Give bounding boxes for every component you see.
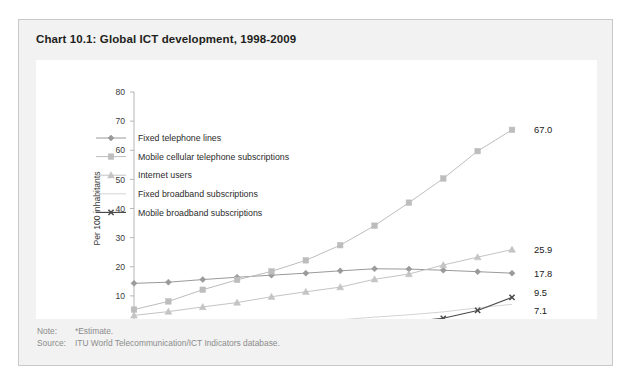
series-line: [134, 304, 512, 319]
footer-source-value: ITU World Telecommunication/ICT Indicato…: [75, 338, 597, 350]
data-point-diamond: [509, 270, 515, 276]
data-point-diamond: [475, 269, 481, 275]
footer-note-value: *Estimate.: [75, 326, 597, 338]
legend-swatch-marker: [108, 154, 114, 160]
data-point-diamond: [165, 279, 171, 285]
footer-note-row: Note: *Estimate.: [37, 326, 597, 338]
ict-development-line-chart: 01020304050607080Per 100 inhabitants9899…: [36, 60, 597, 319]
data-point-x: [509, 295, 514, 300]
screenshot-root: Chart 10.1: Global ICT development, 1998…: [0, 0, 635, 385]
y-axis-title: Per 100 inhabitants: [92, 171, 102, 245]
legend-label: Mobile cellular telephone subscriptions: [138, 152, 290, 162]
data-point-square: [337, 242, 343, 248]
data-point-square: [303, 258, 309, 264]
chart-footer: Note: *Estimate. Source: ITU World Telec…: [37, 326, 597, 349]
data-point-diamond: [372, 266, 378, 272]
data-point-square: [269, 269, 275, 275]
series-end-label: 25.9: [534, 244, 552, 255]
data-point-diamond: [131, 280, 137, 286]
legend-label: Mobile broadband subscriptions: [138, 208, 263, 218]
series-internet-users: [131, 246, 516, 318]
data-point-square: [234, 277, 240, 283]
legend-item-fixed-broadband-subscriptions[interactable]: Fixed broadband subscriptions: [96, 189, 258, 199]
footer-source-label: Source:: [37, 338, 75, 350]
legend-item-internet-users[interactable]: Internet users: [96, 170, 192, 180]
y-tick-label: 10: [115, 291, 125, 301]
series-line: [134, 269, 512, 284]
data-point-square: [509, 127, 515, 133]
series-end-label: 9.5: [534, 287, 547, 298]
data-point-diamond: [303, 270, 309, 276]
series-end-label: 7.1: [534, 305, 547, 316]
y-tick-label: 50: [115, 175, 125, 185]
chart-plot-area: 01020304050607080Per 100 inhabitants9899…: [36, 60, 597, 319]
legend-swatch-marker: [108, 135, 114, 141]
legend-item-mobile-cellular-telephone-subscriptions[interactable]: Mobile cellular telephone subscriptions: [96, 152, 290, 162]
y-tick-label: 80: [115, 87, 125, 97]
data-point-triangle: [509, 246, 516, 252]
data-point-diamond: [337, 268, 343, 274]
chart-title: Chart 10.1: Global ICT development, 1998…: [36, 33, 296, 45]
data-point-square: [475, 148, 481, 154]
series-fixed-broadband-subscriptions: [134, 304, 512, 319]
series-end-label: 17.8: [534, 268, 552, 279]
data-point-diamond: [440, 267, 446, 273]
data-point-square: [166, 299, 172, 305]
series-end-label: 67.0: [534, 124, 552, 135]
y-tick-label: 30: [115, 233, 125, 243]
data-point-diamond: [200, 277, 206, 283]
legend-label: Fixed telephone lines: [138, 133, 222, 143]
data-point-square: [440, 176, 446, 182]
y-tick-label: 60: [115, 145, 125, 155]
data-point-square: [372, 223, 378, 229]
footer-note-label: Note:: [37, 326, 75, 338]
data-point-square: [406, 200, 412, 206]
series-fixed-telephone-lines: [131, 266, 515, 287]
footer-source-row: Source: ITU World Telecommunication/ICT …: [37, 338, 597, 350]
y-tick-label: 70: [115, 116, 125, 126]
data-point-square: [200, 287, 206, 293]
series-line: [134, 250, 512, 316]
chart-card: Chart 10.1: Global ICT development, 1998…: [18, 19, 613, 366]
legend-item-fixed-telephone-lines[interactable]: Fixed telephone lines: [96, 133, 222, 143]
legend-label: Internet users: [138, 170, 192, 180]
legend-label: Fixed broadband subscriptions: [138, 189, 258, 199]
y-tick-label: 20: [115, 262, 125, 272]
series-mobile-broadband-subscriptions: [131, 295, 514, 319]
